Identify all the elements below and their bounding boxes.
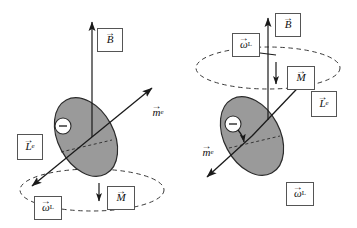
vector-arrow-glyph: → <box>283 13 293 23</box>
label-m-e-right: →me <box>196 143 220 161</box>
label-m-e-left: →me <box>146 103 170 121</box>
vector-arrow-glyph: → <box>151 101 161 111</box>
label-M-left: →M <box>107 186 135 210</box>
vector-arrow-glyph: → <box>296 66 306 76</box>
label-L-e-right: →Le <box>311 91 337 117</box>
vector-arrow-glyph: → <box>239 33 249 43</box>
panel-left-graphics <box>20 22 164 211</box>
label-omega-L-left: →ωL <box>34 196 62 220</box>
vector-arrow-glyph: → <box>105 28 115 38</box>
vector-arrow-glyph: → <box>317 92 327 102</box>
label-B-right: →B <box>275 13 301 37</box>
label-omega-L-right-top: →ωL <box>232 33 260 57</box>
vector-arrow-glyph: → <box>41 196 51 206</box>
figure-canvas: →B →me →Le →ωL →M →B →ωL →M →Le →me →ωL <box>0 0 357 228</box>
vector-arrow-glyph: → <box>201 141 211 151</box>
label-L-e-left: →Le <box>17 134 43 160</box>
label-M-right: →M <box>287 66 315 90</box>
label-omega-L-right-bottom: →ωL <box>286 182 314 206</box>
electron-orbit-disc-left <box>42 87 131 187</box>
vector-arrow-glyph: → <box>293 182 303 192</box>
label-B-left: →B <box>97 28 123 52</box>
vector-arrow-glyph: → <box>23 135 33 145</box>
vector-arrow-glyph: → <box>116 186 126 196</box>
